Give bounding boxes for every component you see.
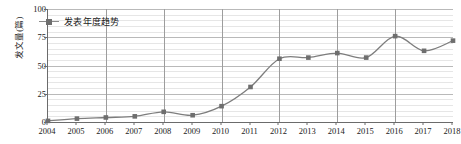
x-axis-tick-label: 2014 (328, 126, 345, 136)
y-axis-tick-mark (44, 94, 48, 95)
x-axis-tick-mark (423, 122, 424, 125)
x-axis-tick-mark (162, 122, 163, 125)
x-axis-tick-label: 2012 (270, 126, 287, 136)
x-axis-tick-label: 2010 (212, 126, 229, 136)
data-point-marker (248, 85, 253, 90)
y-axis-tick-label: 50 (22, 61, 46, 71)
x-axis-tick-mark (249, 122, 250, 125)
x-axis-tick-label: 2009 (183, 126, 200, 136)
y-axis-tick-label: 75 (22, 32, 46, 42)
x-axis-tick-label: 2017 (415, 126, 432, 136)
y-axis-tick-label: 100 (22, 4, 46, 14)
x-axis-tick-label: 2018 (444, 126, 461, 136)
data-point-marker (422, 49, 427, 54)
x-axis-tick-mark (220, 122, 221, 125)
x-axis-tick-labels: 2004200520062007200820092010201120122013… (47, 122, 452, 144)
x-axis-tick-mark (307, 122, 308, 125)
x-axis-tick-label: 2008 (154, 126, 171, 136)
legend-marker-icon (39, 17, 59, 26)
data-point-marker (335, 51, 340, 56)
x-axis-tick-label: 2007 (125, 126, 142, 136)
x-axis-tick-mark (452, 122, 453, 125)
x-axis-tick-mark (365, 122, 366, 125)
x-axis-tick-mark (394, 122, 395, 125)
data-point-marker (451, 38, 456, 43)
data-point-marker (306, 55, 311, 60)
y-axis-tick-mark (44, 37, 48, 38)
x-axis-tick-label: 2006 (96, 126, 113, 136)
legend-label: 发表年度趋势 (64, 15, 120, 28)
x-axis-tick-label: 2011 (241, 126, 258, 136)
data-point-marker (219, 104, 224, 109)
x-axis-tick-label: 2013 (299, 126, 316, 136)
data-point-marker (277, 56, 282, 61)
data-point-marker (104, 115, 109, 120)
x-axis-tick-label: 2016 (386, 126, 403, 136)
x-axis-tick-label: 2005 (67, 126, 84, 136)
data-point-marker (161, 110, 166, 115)
x-axis-tick-mark (336, 122, 337, 125)
y-axis-tick-mark (44, 66, 48, 67)
data-point-marker (393, 34, 398, 39)
x-axis-tick-mark (75, 122, 76, 125)
x-axis-tick-mark (278, 122, 279, 125)
x-axis-tick-mark (104, 122, 105, 125)
x-axis-tick-mark (47, 122, 48, 125)
y-axis-tick-label: 25 (22, 89, 46, 99)
chart-legend: 发表年度趋势 (36, 14, 123, 29)
data-point-marker (190, 113, 195, 118)
data-point-marker (75, 116, 80, 121)
series-path (48, 36, 453, 121)
y-axis-tick-mark (44, 9, 48, 10)
x-axis-tick-mark (191, 122, 192, 125)
data-point-marker (132, 114, 137, 119)
x-axis-tick-label: 2004 (39, 126, 56, 136)
data-point-marker (364, 55, 369, 60)
x-axis-tick-mark (133, 122, 134, 125)
x-axis-tick-label: 2015 (357, 126, 374, 136)
